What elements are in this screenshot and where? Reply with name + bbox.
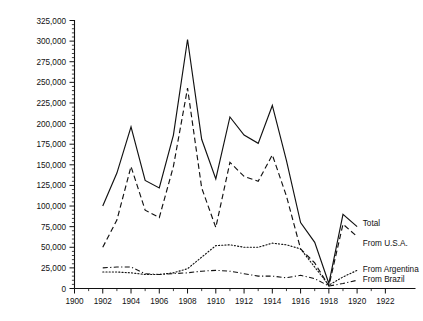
y-axis-label: 25,000 <box>41 264 66 273</box>
x-axis-label: 1916 <box>291 297 310 306</box>
y-axis-label: 50,000 <box>41 243 66 252</box>
y-axis-label: 300,000 <box>36 37 66 46</box>
x-axis-label: 1900 <box>65 297 84 306</box>
legend-label: Total <box>363 219 380 228</box>
y-axis-label: 175,000 <box>36 140 66 149</box>
x-axis-ticks: 1900190219041906190819101912191419161918… <box>65 289 395 307</box>
x-axis-label: 1914 <box>263 297 282 306</box>
x-axis-label: 1912 <box>235 297 254 306</box>
line-chart: 025,00050,00075,000100,000125,000150,000… <box>0 0 423 321</box>
legend-label: From Argentina <box>363 265 419 274</box>
y-axis-label: 75,000 <box>41 223 66 232</box>
y-axis-label: 100,000 <box>36 202 66 211</box>
series-line-from-argentina <box>103 243 357 285</box>
y-axis-label: 250,000 <box>36 78 66 87</box>
y-axis-label: 325,000 <box>36 17 66 26</box>
y-axis-label: 275,000 <box>36 58 66 67</box>
x-axis-label: 1920 <box>348 297 367 306</box>
x-axis-label: 1910 <box>207 297 226 306</box>
x-axis-label: 1908 <box>178 297 197 306</box>
legend: TotalFrom U.S.A.From ArgentinaFrom Brazi… <box>363 219 419 285</box>
x-axis-label: 1906 <box>150 297 169 306</box>
chart-container: 025,00050,00075,000100,000125,000150,000… <box>0 0 423 321</box>
x-axis-label: 1902 <box>94 297 113 306</box>
x-axis-label: 1904 <box>122 297 141 306</box>
series-group <box>103 39 357 286</box>
x-axis-label: 1918 <box>320 297 339 306</box>
series-line-total <box>103 39 357 283</box>
x-axis-label: 1922 <box>376 297 395 306</box>
axes <box>75 20 416 289</box>
y-axis-label: 225,000 <box>36 99 66 108</box>
y-axis-label: 150,000 <box>36 161 66 170</box>
y-axis-label: 0 <box>61 285 66 294</box>
y-axis-label: 200,000 <box>36 120 66 129</box>
legend-label: From U.S.A. <box>363 239 408 248</box>
y-axis-ticks: 025,00050,00075,000100,000125,000150,000… <box>36 17 74 294</box>
legend-label: From Brazil <box>363 275 405 284</box>
y-axis-label: 125,000 <box>36 181 66 190</box>
